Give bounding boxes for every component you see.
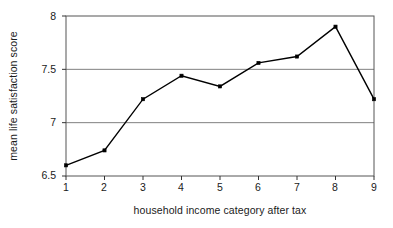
data-point-marker xyxy=(64,164,67,167)
data-line xyxy=(66,27,374,166)
axis-ticks xyxy=(62,16,374,180)
data-point-marker xyxy=(141,98,144,101)
x-axis-label: household income category after tax xyxy=(60,204,380,216)
grid-lines xyxy=(66,69,374,122)
plot-area xyxy=(0,0,393,228)
plot-frame xyxy=(66,16,374,176)
data-point-marker xyxy=(257,61,260,64)
line-chart: mean life satisfaction score 8 7.5 7 6.5… xyxy=(0,0,393,228)
data-markers xyxy=(64,25,375,167)
data-point-marker xyxy=(334,25,337,28)
data-point-marker xyxy=(103,149,106,152)
series-line xyxy=(66,27,374,166)
data-point-marker xyxy=(180,74,183,77)
data-point-marker xyxy=(372,98,375,101)
data-point-marker xyxy=(295,55,298,58)
frame-rect xyxy=(66,16,374,176)
data-point-marker xyxy=(218,85,221,88)
